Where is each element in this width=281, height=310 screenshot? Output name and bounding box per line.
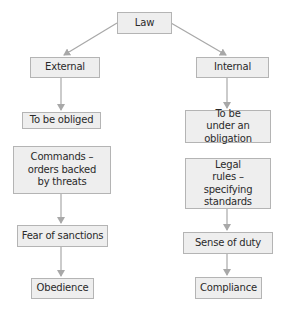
node-label: Sense of duty <box>195 237 261 250</box>
node-law: Law <box>117 12 172 34</box>
node-to-be-under-obligation: To be under an obligation <box>185 110 271 143</box>
node-label: Compliance <box>200 282 257 295</box>
node-obedience: Obedience <box>31 278 94 299</box>
node-label: Obedience <box>37 282 89 295</box>
node-label: External <box>45 61 85 74</box>
node-label: To be under an obligation <box>200 108 256 146</box>
node-label: Legal rules – specifying standards <box>202 159 254 209</box>
arrow-law-external <box>64 23 117 55</box>
node-label: Commands – orders backed by threats <box>22 151 102 189</box>
node-fear-of-sanctions: Fear of sanctions <box>17 225 108 247</box>
node-to-be-obliged: To be obliged <box>22 112 101 129</box>
arrow-law-internal <box>171 23 226 55</box>
node-internal: Internal <box>196 57 269 78</box>
node-legal-rules: Legal rules – specifying standards <box>185 158 271 209</box>
node-label: Internal <box>214 61 251 74</box>
node-commands: Commands – orders backed by threats <box>13 146 111 194</box>
node-label: Law <box>135 17 154 30</box>
node-sense-of-duty: Sense of duty <box>183 232 273 254</box>
node-label: Fear of sanctions <box>22 230 104 243</box>
node-compliance: Compliance <box>195 277 262 299</box>
node-external: External <box>30 57 100 78</box>
node-label: To be obliged <box>30 114 94 127</box>
